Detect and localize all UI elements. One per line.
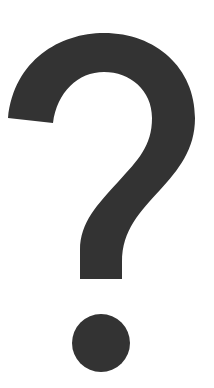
question-mark-dot <box>72 314 130 372</box>
question-mark-image: ? <box>0 0 214 388</box>
question-mark-icon <box>0 0 214 388</box>
question-mark-hook <box>8 33 195 279</box>
